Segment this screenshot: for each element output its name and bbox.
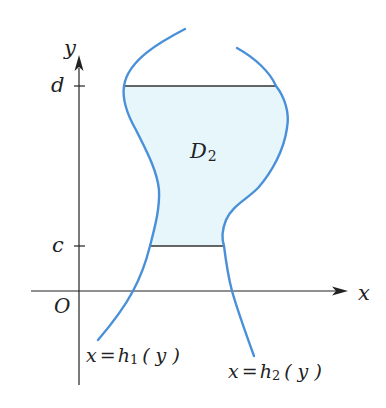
shaded-region	[124, 86, 288, 246]
x-axis-label: x	[358, 281, 370, 305]
tick-label-c: c	[52, 233, 64, 257]
curve-h1-label: x=h1( y )	[86, 344, 180, 367]
tick-label-d: d	[51, 73, 64, 97]
y-axis-label: y	[63, 36, 77, 60]
origin-label: O	[54, 294, 70, 318]
curve-h2-label: x=h2( y )	[228, 360, 322, 383]
region-diagram: y x O d c D2 x=h1( y ) x=h2( y )	[0, 0, 386, 408]
